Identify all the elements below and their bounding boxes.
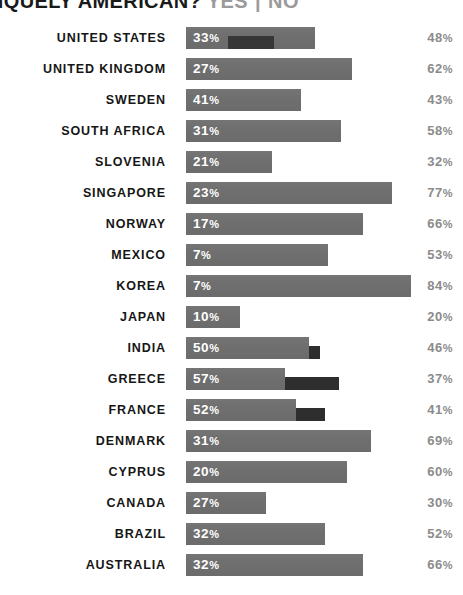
bar-value-no-number: 48 <box>427 30 442 45</box>
bar-value-no: 32% <box>427 151 453 173</box>
bar-value-no: 62% <box>427 58 453 80</box>
country-label: DENMARK <box>0 430 178 452</box>
bar-chart-row: SOUTH AFRICA31%58% <box>0 120 463 151</box>
bar-value-no: 66% <box>427 554 453 576</box>
bar-track: 27% <box>186 492 463 514</box>
bar-track: 32% <box>186 554 463 576</box>
percent-sign: % <box>209 63 219 75</box>
bar-value-no-number: 43 <box>427 92 442 107</box>
bar-chart-row: NORWAY17%66% <box>0 213 463 244</box>
percent-sign: % <box>443 187 453 199</box>
bar-value-no: 48% <box>427 27 453 49</box>
bar-value-no: 20% <box>427 306 453 328</box>
chart-title-text: LY UNIQUELY AMERICAN? <box>0 0 201 12</box>
country-label: CANADA <box>0 492 178 514</box>
bar-value-yes-number: 27 <box>193 61 209 76</box>
bar-value-yes: 20% <box>193 461 220 483</box>
country-label: UNITED KINGDOM <box>0 58 178 80</box>
bar-track: 50% <box>186 337 463 359</box>
bar-value-yes: 32% <box>193 523 220 545</box>
bar-value-yes-number: 33 <box>193 30 209 45</box>
bar-track: 10% <box>186 306 463 328</box>
bar-segment-yes <box>309 346 320 359</box>
bar-value-no-number: 46 <box>427 340 442 355</box>
percent-sign: % <box>209 559 219 571</box>
country-label: SINGAPORE <box>0 182 178 204</box>
bar-chart-row: UNITED KINGDOM27%62% <box>0 58 463 89</box>
bar-segment-yes <box>228 36 274 49</box>
bar-chart-row: CYPRUS20%60% <box>0 461 463 492</box>
bar-value-no: 37% <box>427 368 453 390</box>
bar-value-yes-number: 32 <box>193 526 209 541</box>
bar-value-yes-number: 23 <box>193 185 209 200</box>
percent-sign: % <box>443 280 453 292</box>
bar-value-yes-number: 20 <box>193 464 209 479</box>
bar-value-yes: 17% <box>193 213 220 235</box>
bar-track: 52% <box>186 399 463 421</box>
bar-value-no-number: 52 <box>427 526 442 541</box>
percent-sign: % <box>209 342 219 354</box>
bar-value-yes: 7% <box>193 244 212 266</box>
bar-chart-row: UNITED STATES33%48% <box>0 27 463 58</box>
bar-track: 23% <box>186 182 463 204</box>
bar-value-no: 66% <box>427 213 453 235</box>
bar-value-yes: 27% <box>193 492 220 514</box>
percent-sign: % <box>443 156 453 168</box>
bar-value-no: 52% <box>427 523 453 545</box>
bar-segment-yes <box>285 377 339 390</box>
bar-value-no-number: 69 <box>427 433 442 448</box>
percent-sign: % <box>209 466 219 478</box>
percent-sign: % <box>209 311 219 323</box>
bar-value-no-number: 58 <box>427 123 442 138</box>
percent-sign: % <box>443 125 453 137</box>
percent-sign: % <box>209 497 219 509</box>
percent-sign: % <box>443 528 453 540</box>
percent-sign: % <box>443 373 453 385</box>
percent-sign: % <box>443 311 453 323</box>
bar-value-yes: 10% <box>193 306 220 328</box>
bar-value-yes: 21% <box>193 151 220 173</box>
bar-value-no: 77% <box>427 182 453 204</box>
bar-chart-row: GREECE57%37% <box>0 368 463 399</box>
country-label: FRANCE <box>0 399 178 421</box>
percent-sign: % <box>443 435 453 447</box>
bar-value-no-number: 53 <box>427 247 442 262</box>
percent-sign: % <box>209 32 219 44</box>
percent-sign: % <box>443 466 453 478</box>
country-label: SLOVENIA <box>0 151 178 173</box>
bar-value-no-number: 41 <box>427 402 442 417</box>
bar-value-yes: 52% <box>193 399 220 421</box>
percent-sign: % <box>443 63 453 75</box>
country-label: UNITED STATES <box>0 27 178 49</box>
bar-track: 31% <box>186 120 463 142</box>
bar-value-yes-number: 31 <box>193 123 209 138</box>
bar-value-yes-number: 10 <box>193 309 209 324</box>
bar-chart-row: INDIA50%46% <box>0 337 463 368</box>
country-label: MEXICO <box>0 244 178 266</box>
percent-sign: % <box>443 94 453 106</box>
bar-chart-row: SINGAPORE23%77% <box>0 182 463 213</box>
bar-chart-row: SLOVENIA21%32% <box>0 151 463 182</box>
legend-item-no: NO <box>268 0 299 12</box>
bar-value-yes: 57% <box>193 368 220 390</box>
percent-sign: % <box>443 497 453 509</box>
bar-track: 7% <box>186 244 463 266</box>
bar-track: 41% <box>186 89 463 111</box>
bar-value-yes: 33% <box>193 27 220 49</box>
bar-value-no-number: 30 <box>427 495 442 510</box>
bar-chart-row: AUSTRALIA32%66% <box>0 554 463 585</box>
country-label: AUSTRALIA <box>0 554 178 576</box>
percent-sign: % <box>209 94 219 106</box>
bar-value-no-number: 20 <box>427 309 442 324</box>
percent-sign: % <box>443 342 453 354</box>
country-label: GREECE <box>0 368 178 390</box>
percent-sign: % <box>209 218 219 230</box>
bar-chart-row: BRAZIL32%52% <box>0 523 463 554</box>
percent-sign: % <box>209 156 219 168</box>
bar-segment-yes <box>296 408 326 421</box>
percent-sign: % <box>443 249 453 261</box>
bar-value-yes: 41% <box>193 89 220 111</box>
bar-chart-row: CANADA27%30% <box>0 492 463 523</box>
bar-value-no: 41% <box>427 399 453 421</box>
bar-track: 21% <box>186 151 463 173</box>
